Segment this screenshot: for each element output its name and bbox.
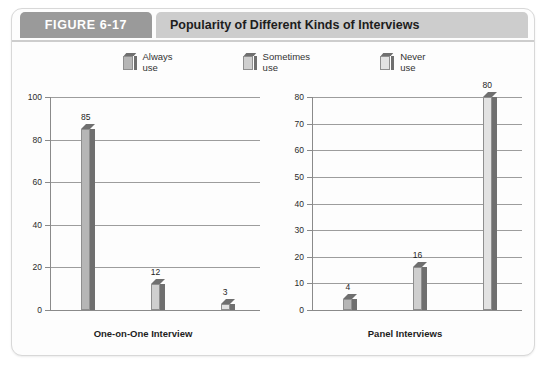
figure-tag: FIGURE 6-17 — [20, 12, 152, 38]
y-axis-tick-label: 20 — [295, 252, 304, 262]
legend-swatch-icon — [123, 53, 136, 70]
bar-face — [483, 97, 492, 310]
figure-title: Popularity of Different Kinds of Intervi… — [170, 18, 419, 32]
legend-item: Always use — [123, 51, 173, 73]
y-axis-tick-label: 50 — [295, 172, 304, 182]
y-axis-tick-label: 0 — [299, 305, 304, 315]
bar: 3 — [221, 304, 230, 310]
y-axis-tick-label: 10 — [295, 278, 304, 288]
y-axis-tick-label: 60 — [33, 177, 42, 187]
figure-titlebar: Popularity of Different Kinds of Intervi… — [156, 12, 528, 38]
bar-face — [221, 304, 230, 310]
bar-value-label: 85 — [81, 112, 90, 122]
legend-swatch-icon — [243, 53, 256, 70]
y-axis-tick-label: 20 — [33, 262, 42, 272]
header-divider — [12, 40, 535, 42]
bar-value-label: 12 — [151, 267, 160, 277]
plot-area: 0102030405060708041680 — [312, 97, 522, 311]
bar-face — [81, 129, 90, 310]
legend-label: Sometimes use — [263, 51, 311, 73]
y-axis-tick-label: 30 — [295, 225, 304, 235]
bars-group: 41680 — [313, 97, 522, 310]
bar-face — [151, 284, 160, 310]
chart-legend: Always useSometimes useNever use — [12, 51, 535, 85]
y-axis-tick-label: 40 — [33, 220, 42, 230]
bar: 12 — [151, 284, 160, 310]
x-axis-label: One-on-One Interview — [12, 328, 274, 339]
bar-side — [492, 97, 497, 310]
legend-item: Never use — [380, 51, 425, 73]
bar: 80 — [483, 97, 492, 310]
bar-face — [413, 267, 422, 310]
plot-area: 02040608010085123 — [50, 97, 260, 311]
bar-side — [90, 129, 95, 310]
bar-chart: 0102030405060708041680Panel Interviews — [274, 85, 535, 353]
axis-tick — [45, 310, 51, 311]
bar-face — [343, 299, 352, 310]
bar-value-label: 16 — [413, 250, 422, 260]
charts-container: 02040608010085123One-on-One Interview010… — [12, 85, 535, 353]
axis-tick — [307, 310, 313, 311]
legend-label: Never use — [400, 51, 425, 73]
bars-group: 85123 — [51, 97, 260, 310]
bar-side — [230, 304, 235, 310]
bar: 85 — [81, 129, 90, 310]
y-axis-tick-label: 0 — [37, 305, 42, 315]
y-axis-tick-label: 80 — [33, 135, 42, 145]
bar: 4 — [343, 299, 352, 310]
legend-swatch-icon — [380, 53, 393, 70]
bar-side — [160, 284, 165, 310]
legend-item: Sometimes use — [243, 51, 311, 73]
figure-header: FIGURE 6-17 Popularity of Different Kind… — [12, 9, 535, 40]
bar-side — [352, 299, 357, 310]
legend-label: Always use — [143, 51, 173, 73]
figure-card: FIGURE 6-17 Popularity of Different Kind… — [11, 8, 535, 356]
bar-value-label: 80 — [482, 80, 491, 90]
bar-side — [422, 267, 427, 310]
y-axis-tick-label: 40 — [295, 199, 304, 209]
y-axis-tick-label: 70 — [295, 119, 304, 129]
bar-value-label: 3 — [223, 287, 228, 297]
bar-chart: 02040608010085123One-on-One Interview — [12, 85, 274, 353]
bar: 16 — [413, 267, 422, 310]
bar-value-label: 4 — [345, 282, 350, 292]
y-axis-tick-label: 60 — [295, 145, 304, 155]
y-axis-tick-label: 100 — [28, 92, 42, 102]
x-axis-label: Panel Interviews — [274, 328, 535, 339]
y-axis-tick-label: 80 — [295, 92, 304, 102]
